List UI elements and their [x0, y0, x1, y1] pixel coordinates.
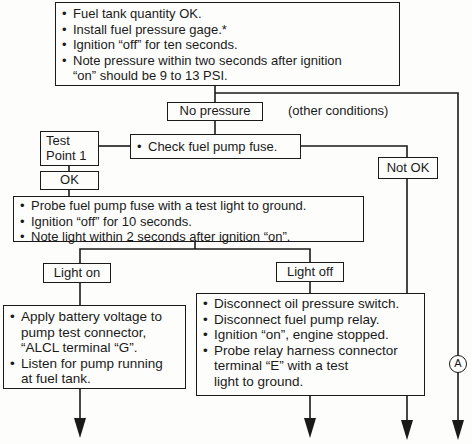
ok-label: OK	[40, 171, 99, 190]
other-conditions-label: (other conditions)	[288, 103, 388, 118]
start-item: Fuel tank quantity OK.	[62, 6, 395, 22]
start-item: Install fuel pressure gage.*	[62, 22, 395, 38]
light-on-item: Apply battery voltage to	[10, 309, 181, 325]
start-item: Note pressure within two seconds after i…	[62, 53, 395, 69]
light-on-item: Listen for pump running	[10, 356, 181, 372]
not-ok-label: Not OK	[378, 157, 438, 179]
light-on-item-continuation: pump test connector,	[10, 325, 181, 341]
light-off-label: Light off	[276, 262, 344, 282]
light-on-item-continuation: at fuel tank.	[10, 371, 181, 387]
start-item-continuation: “on” should be 9 to 13 PSI.	[62, 68, 395, 84]
start-box: Fuel tank quantity OK. Install fuel pres…	[55, 2, 400, 86]
light-on-label: Light on	[43, 263, 111, 283]
test-point-line: Point 1	[46, 148, 98, 163]
check-fuse-item: Check fuel pump fuse.	[137, 139, 296, 155]
probe-fuse-box: Probe fuel pump fuse with a test light t…	[13, 196, 364, 242]
arrowheads	[74, 418, 464, 440]
probe-item: Note light within 2 seconds after igniti…	[20, 229, 359, 245]
check-fuse-box: Check fuel pump fuse.	[130, 134, 301, 159]
probe-item: Ignition “off” for 10 seconds.	[20, 214, 359, 230]
light-on-action-box: Apply battery voltage to pump test conne…	[3, 305, 186, 389]
light-off-item: Probe relay harness connector	[203, 343, 420, 359]
probe-item: Probe fuel pump fuse with a test light t…	[20, 198, 359, 214]
light-off-item-continuation: light to ground.	[203, 374, 420, 390]
light-off-item: Disconnect oil pressure switch.	[203, 296, 420, 312]
light-off-action-box: Disconnect oil pressure switch. Disconne…	[196, 293, 425, 396]
light-off-item: Ignition “on”, engine stopped.	[203, 327, 420, 343]
light-off-item-continuation: terminal “E” with a test	[203, 358, 420, 374]
no-pressure-label: No pressure	[167, 102, 263, 121]
start-item: Ignition “off” for ten seconds.	[62, 37, 395, 53]
connector-a-marker: A	[449, 355, 467, 373]
light-off-item: Disconnect fuel pump relay.	[203, 312, 420, 328]
test-point-line: Test	[46, 133, 98, 148]
light-on-item-continuation: “ALCL terminal “G”.	[10, 340, 181, 356]
test-point-1-label: Test Point 1	[40, 131, 99, 166]
